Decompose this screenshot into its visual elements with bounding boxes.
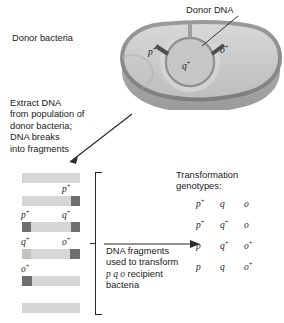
fragments-bracket xyxy=(95,172,104,315)
genotype-p: p+ xyxy=(196,220,204,230)
genotype-p: p xyxy=(196,262,201,272)
genotypes-list: p+ q o p+ q+ o p q+ o+ p q o+ xyxy=(196,199,284,283)
caption-line-3-rest: recipient xyxy=(125,269,163,279)
chromosome-marker-q: q+ xyxy=(182,61,190,71)
band-q-plus xyxy=(71,222,80,232)
fragment-bar-2 xyxy=(22,196,80,206)
band-p-plus xyxy=(22,222,31,232)
genotype-q: q+ xyxy=(220,241,228,251)
recipient-genotype: p q o xyxy=(106,269,125,279)
fragment-bar-5 xyxy=(22,276,80,286)
genotype-p: p+ xyxy=(196,199,204,209)
genotypes-heading-2: genotypes: xyxy=(176,181,284,192)
band-o-plus xyxy=(22,276,32,286)
figure-canvas: p+ q+ o+ Donor bacteria Donor DNA Extrac… xyxy=(0,0,284,323)
genotype-o: o+ xyxy=(244,241,252,251)
fragment-bar-1 xyxy=(22,173,80,183)
dna-fragments-caption: DNA fragments used to transform p q o re… xyxy=(106,246,186,292)
genotype-q: q xyxy=(220,262,225,272)
fragment-label-3-p: p+ xyxy=(21,210,29,220)
genotype-p: p xyxy=(196,241,201,251)
band-q-plus xyxy=(22,249,31,259)
fragment-label-2-p: p+ xyxy=(62,184,70,194)
genotype-o: o xyxy=(244,220,249,230)
band-p-plus xyxy=(71,196,80,206)
fragment-bar-3 xyxy=(22,222,80,232)
fragment-label-5-o: o+ xyxy=(21,264,29,274)
genotype-o: o+ xyxy=(244,262,252,272)
fragment-label-4-o: o+ xyxy=(62,237,70,247)
fragment-label-4-q: q+ xyxy=(21,237,29,247)
caption-line-1: DNA fragments xyxy=(106,246,186,257)
genotype-row: p q+ o+ xyxy=(196,241,284,262)
caption-line-3: p q o recipient xyxy=(106,269,186,280)
caption-line-4: bacteria xyxy=(106,280,186,291)
caption-line-2: used to transform xyxy=(106,257,186,268)
donor-bacteria-label: Donor bacteria xyxy=(12,33,73,44)
donor-cell-svg xyxy=(118,14,284,110)
chromosome-marker-p: p+ xyxy=(148,47,156,57)
genotype-row: p+ q+ o xyxy=(196,220,284,241)
extract-arrow xyxy=(60,112,136,170)
fragment-bar-4 xyxy=(22,249,80,259)
genotype-o: o xyxy=(244,199,249,209)
genotype-row: p+ q o xyxy=(196,199,284,220)
genotype-q: q xyxy=(220,199,225,209)
genotype-q: q+ xyxy=(220,220,228,230)
donor-bacteria-cell: p+ q+ o+ xyxy=(118,14,284,110)
donor-dna-label: Donor DNA xyxy=(186,5,234,16)
band-o-plus xyxy=(70,249,80,259)
chromosome-marker-o: o+ xyxy=(220,45,228,55)
fragment-bar-6 xyxy=(22,303,80,313)
genotype-row: p q o+ xyxy=(196,262,284,283)
genotypes-panel: Transformation genotypes: xyxy=(176,170,284,193)
fragment-label-3-q: q+ xyxy=(62,210,70,220)
genotypes-heading-1: Transformation xyxy=(176,170,284,181)
